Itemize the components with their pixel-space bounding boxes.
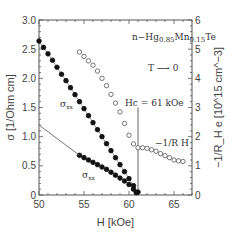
y2-tick-label: 0 [195,190,201,201]
chart: 5055606500.51.01.52.02.53.00123456H [kOe… [0,0,232,235]
data-point [109,92,113,96]
extrapolation-line [39,125,80,155]
x-tick-label: 65 [168,199,180,210]
data-point [100,165,105,170]
data-point [122,179,127,184]
data-point [73,92,78,97]
data-point [86,158,91,163]
sigma-xx-label: σxx [60,99,74,110]
data-point [113,101,117,105]
y-tick-label: 0.5 [22,160,36,171]
data-point [95,127,100,132]
data-point [68,85,73,90]
x-axis-title: H [kOe] [97,216,134,228]
data-point [95,69,99,73]
sigma-xy-label: σxx [82,170,96,181]
data-point [127,133,131,137]
data-point [82,54,86,58]
data-point [46,52,51,57]
x-tick-label: 55 [78,199,90,210]
data-point [158,151,162,155]
data-point [104,167,109,172]
data-point [64,78,69,83]
data-point [104,83,108,87]
y-tick-label: 0 [30,190,36,201]
data-point [118,110,122,114]
data-point [59,72,64,77]
data-point [55,65,60,70]
data-point [127,176,132,181]
data-point [86,113,91,118]
material-label: n−Hg0.85Mn0.15Te [132,32,216,44]
data-point [82,106,87,111]
y-axis-title: σ [1/Ohm cm] [4,74,16,141]
data-point [91,160,96,165]
data-point [82,155,87,160]
y2-tick-label: 5 [195,44,201,55]
y-tick-label: 2.5 [22,44,36,55]
y2-tick-label: 6 [195,15,201,26]
y2-tick-label: 2 [195,131,201,142]
data-point [122,121,126,125]
y-tick-label: 3.0 [22,15,36,26]
data-point [91,120,96,125]
y2-axis-title: −1/R_H e [10^15 cm^−3] [212,47,224,168]
y2-tick-label: 3 [195,102,201,113]
data-point [113,173,118,178]
data-point [100,134,105,139]
data-point [86,59,90,63]
data-point [122,169,127,174]
data-point [149,148,153,152]
data-point [91,63,95,67]
data-point [118,176,123,181]
data-point [50,58,55,63]
data-point [167,155,171,159]
data-point [127,182,132,187]
data-point [163,153,167,157]
data-point [136,146,140,150]
data-point [181,159,185,163]
x-tick-label: 50 [33,199,45,210]
data-point [37,39,42,44]
hall-label: −1/R H [155,138,189,148]
data-point [154,149,158,153]
data-point [77,99,82,104]
data-point [118,162,123,167]
y2-tick-label: 4 [195,73,201,84]
y-tick-label: 2.0 [22,73,36,84]
data-point [95,162,100,167]
y-tick-label: 1.5 [22,102,36,113]
data-point [113,155,118,160]
data-point [41,45,46,50]
data-point [176,159,180,163]
data-point [100,76,104,80]
data-point [104,141,109,146]
data-point [172,158,176,162]
data-point [131,142,135,146]
y2-tick-label: 1 [195,160,201,171]
data-point [145,146,149,150]
data-point [109,148,114,153]
data-point [109,170,114,175]
data-point [140,146,144,150]
critical-field-label: Hc = 61 kOe [125,98,184,108]
x-tick-label: 60 [123,199,135,210]
temperature-label: T ⟶ 0 [148,63,179,73]
y-tick-label: 1.0 [22,131,36,142]
data-point [134,190,139,195]
data-point [77,50,81,54]
